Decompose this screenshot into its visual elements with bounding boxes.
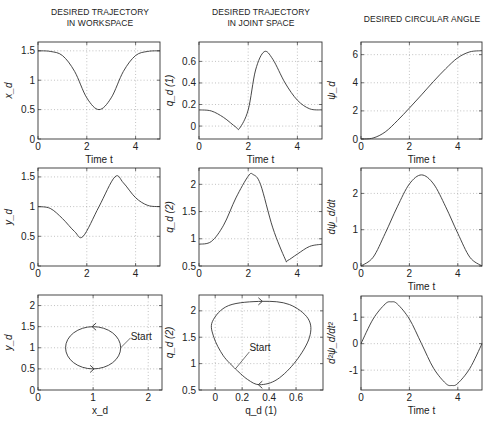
- y-tick-label: 4: [352, 77, 358, 88]
- x-axis-label: Time t: [408, 281, 436, 292]
- x-tick-label: 0: [35, 268, 41, 279]
- y-tick-label: 1.5: [182, 206, 196, 217]
- y-tick-label: 6: [352, 49, 358, 60]
- y-tick-label: 0: [352, 261, 358, 272]
- x-axis-label: Time t: [85, 154, 113, 165]
- x-tick-label: 0: [358, 268, 364, 279]
- y-tick-label: 1: [29, 75, 35, 86]
- start-annotation: Start: [249, 342, 270, 353]
- x-tick-label: 0: [196, 141, 202, 152]
- x-tick-label: 0.2: [235, 392, 249, 403]
- y-axis-label: q_d (2): [164, 327, 175, 359]
- y-tick-label: 1: [352, 224, 358, 235]
- data-curve: [361, 175, 482, 266]
- y-tick-label: 1: [29, 201, 35, 212]
- x-tick-label: 4: [455, 141, 461, 152]
- subplot-qd1: 02400.20.40.6Time tq_d (1): [164, 42, 322, 165]
- y-tick-label: 0.5: [21, 231, 35, 242]
- x-tick-label: 2: [84, 141, 90, 152]
- y-tick-label: 1: [190, 233, 196, 244]
- x-tick-label: 0: [212, 392, 218, 403]
- x-axis-label: Time t: [408, 154, 436, 165]
- y-tick-label: 0.5: [21, 363, 35, 374]
- y-tick-label: 1: [29, 342, 35, 353]
- axes-box: [361, 42, 482, 139]
- y-tick-label: 1.5: [182, 332, 196, 343]
- y-tick-label: 0: [190, 121, 196, 132]
- x-tick-label: 2: [84, 268, 90, 279]
- y-tick-label: 2: [352, 105, 358, 116]
- data-curve: [199, 51, 322, 129]
- y-tick-label: 0.4: [182, 77, 196, 88]
- y-axis-label: dψ_d/dt: [326, 198, 337, 234]
- x-tick-label: 0: [358, 392, 364, 403]
- subplot-joint-path: 00.20.40.60.511.52Startq_d (1)q_d (2): [164, 295, 323, 416]
- data-curve: [361, 51, 482, 139]
- y-tick-label: 2: [190, 179, 196, 190]
- y-axis-label: q_d (1): [164, 75, 175, 107]
- y-tick-label: 2: [190, 305, 196, 316]
- x-tick-label: 2: [407, 392, 413, 403]
- x-axis-label: x_d: [92, 405, 108, 416]
- x-tick-label: 4: [295, 141, 301, 152]
- subplot-psi: 0240246Time tψ_d: [326, 42, 482, 165]
- y-axis-label: ψ_d: [326, 81, 337, 100]
- figure-canvas: 02400.511.5Time tx_d02400.511.5y_d01200.…: [0, 0, 492, 429]
- subplot-xy-path: 01200.511.52Startx_dy_d: [3, 295, 162, 416]
- axes-box: [199, 168, 322, 266]
- x-tick-label: 0: [35, 141, 41, 152]
- y-tick-label: 1.5: [21, 45, 35, 56]
- x-tick-label: 4: [455, 392, 461, 403]
- x-tick-label: 0.6: [289, 392, 303, 403]
- x-tick-label: 4: [133, 141, 139, 152]
- y-tick-label: 0: [352, 134, 358, 145]
- x-tick-label: 2: [407, 268, 413, 279]
- subplot-ddpsi: 024-101Time td²ψ_d/dt²: [326, 296, 482, 416]
- x-tick-label: 2: [245, 141, 251, 152]
- axes-box: [361, 168, 482, 266]
- y-axis-label: x_d: [3, 82, 14, 100]
- y-axis-label: y_d: [3, 334, 14, 352]
- x-tick-label: 4: [295, 268, 301, 279]
- x-tick-label: 0: [358, 141, 364, 152]
- axes-box: [38, 42, 160, 139]
- y-tick-label: 2: [29, 300, 35, 311]
- x-tick-label: 2: [407, 141, 413, 152]
- x-axis-label: Time t: [408, 405, 436, 416]
- data-curve: [199, 173, 322, 262]
- x-tick-label: 0: [196, 268, 202, 279]
- subplot-yd: 02400.511.5y_d: [3, 168, 160, 279]
- y-tick-label: 0: [29, 134, 35, 145]
- y-tick-label: 1: [190, 358, 196, 369]
- x-tick-label: 2: [245, 268, 251, 279]
- start-annotation: Start: [131, 331, 152, 342]
- subplot-dpsi: 024012Time tdψ_d/dt: [326, 168, 482, 292]
- y-tick-label: 0: [29, 385, 35, 396]
- y-tick-label: 0.5: [182, 385, 196, 396]
- y-tick-label: 2: [352, 188, 358, 199]
- axes-box: [38, 168, 160, 266]
- x-axis-label: Time t: [247, 154, 275, 165]
- y-tick-label: -1: [349, 365, 358, 376]
- axes-box: [38, 295, 162, 390]
- x-tick-label: 0.4: [262, 392, 276, 403]
- y-tick-label: 0: [29, 261, 35, 272]
- y-axis-label: y_d: [3, 209, 14, 227]
- x-tick-label: 2: [145, 392, 151, 403]
- y-tick-label: 0.5: [21, 104, 35, 115]
- subplot-xd: 02400.511.5Time tx_d: [3, 42, 160, 165]
- x-tick-label: 4: [455, 268, 461, 279]
- y-tick-label: 0.6: [182, 56, 196, 67]
- data-curve: [38, 176, 160, 238]
- x-tick-label: 1: [90, 392, 96, 403]
- y-axis-label: d²ψ_d/dt²: [326, 321, 337, 363]
- x-tick-label: 0: [35, 392, 41, 403]
- y-tick-label: 0: [352, 338, 358, 349]
- y-tick-label: 0.5: [182, 261, 196, 272]
- y-tick-label: 1: [352, 312, 358, 323]
- x-axis-label: q_d (1): [245, 405, 277, 416]
- x-tick-label: 4: [133, 268, 139, 279]
- y-axis-label: q_d (2): [164, 201, 175, 233]
- y-tick-label: 1.5: [21, 171, 35, 182]
- y-tick-label: 0.2: [182, 99, 196, 110]
